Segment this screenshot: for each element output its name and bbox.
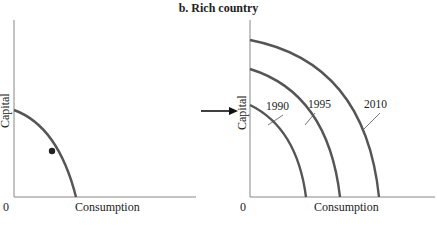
leader-1995 (305, 113, 315, 125)
left-point (49, 148, 55, 154)
right-origin: 0 (240, 200, 246, 214)
left-ppf-curve (14, 110, 76, 197)
label-1990: 1990 (266, 100, 289, 112)
left-axes (14, 20, 196, 197)
right-y-label: Capital (235, 95, 250, 130)
curve-1995 (250, 69, 340, 197)
left-x-label: Consumption (75, 200, 140, 214)
leader-2010 (363, 113, 380, 130)
label-1995: 1995 (308, 98, 331, 110)
right-x-label: Consumption (314, 200, 379, 214)
arrow-icon (201, 107, 238, 115)
left-origin: 0 (3, 200, 9, 214)
label-2010: 2010 (364, 98, 387, 110)
left-y-label: Capital (0, 93, 13, 128)
